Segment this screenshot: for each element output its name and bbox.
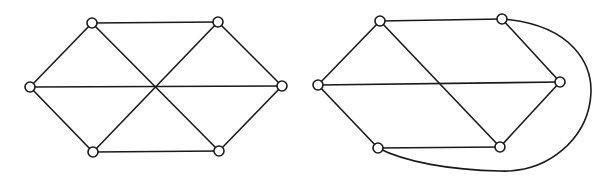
- graph-diagram: [0, 0, 610, 180]
- graph-left: [25, 17, 287, 157]
- edge-b-c: [502, 19, 560, 82]
- edge-f-a: [318, 21, 380, 85]
- edge-c-d: [500, 82, 560, 147]
- edge-d-e: [378, 147, 500, 148]
- edge-c-d: [219, 86, 282, 151]
- edge-d-e: [93, 151, 219, 152]
- node-a: [375, 16, 385, 26]
- edge-f-c: [30, 86, 282, 87]
- graph-right: [313, 14, 591, 171]
- node-b: [497, 14, 507, 24]
- node-a: [87, 18, 97, 28]
- node-d: [214, 146, 224, 156]
- node-e: [88, 147, 98, 157]
- node-d: [495, 142, 505, 152]
- node-c: [555, 77, 565, 87]
- edge-f-a: [30, 23, 92, 87]
- edge-b-c: [218, 22, 282, 86]
- node-f: [313, 80, 323, 90]
- edge-e-f: [30, 87, 93, 152]
- edge-e-f: [318, 85, 378, 148]
- node-b: [213, 17, 223, 27]
- edge-a-b: [92, 22, 218, 23]
- node-e: [373, 143, 383, 153]
- node-c: [277, 81, 287, 91]
- edge-a-b: [380, 19, 502, 21]
- node-f: [25, 82, 35, 92]
